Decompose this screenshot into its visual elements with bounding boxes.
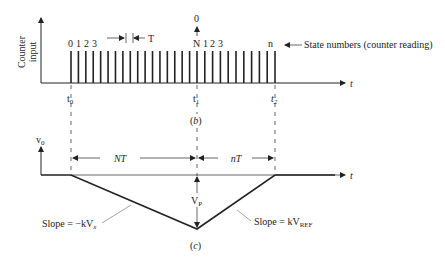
integrator-output-diagram: v0 t NT nT VP Slope = −kVx Slope = kVREF…: [36, 134, 353, 252]
caption-b: (b): [190, 115, 202, 127]
vo-y-axis-label: v0: [36, 134, 45, 147]
slope-up-label: Slope = kVREF: [254, 216, 313, 229]
counter-x-axis-label: t: [350, 78, 353, 89]
counter-y-label-line2: input: [27, 42, 38, 63]
state-label-2: 2: [84, 38, 89, 49]
state-label-N: N: [193, 38, 200, 49]
t1-label: t1: [193, 93, 200, 106]
dual-slope-timing-diagram: t Counter input 0 1 2 3 N 1 2 3 n 0 T St…: [0, 0, 445, 263]
state-label-mid-3: 3: [218, 38, 223, 49]
state-label-3: 3: [92, 38, 97, 49]
counter-input-diagram: t Counter input 0 1 2 3 N 1 2 3 n 0 T St…: [16, 13, 433, 127]
state-label-mid-1: 1: [203, 38, 208, 49]
state-label-1: 1: [76, 38, 81, 49]
slope-up-leader: [237, 210, 251, 221]
counter-y-label-line1: Counter: [16, 35, 27, 68]
vo-x-axis-label: t: [350, 170, 353, 181]
slope-down-label: Slope = −kVx: [42, 218, 97, 231]
reset-label-0: 0: [194, 13, 199, 24]
pulse-train: [71, 51, 275, 83]
slope-down-leader: [102, 205, 131, 223]
state-label-mid-2: 2: [210, 38, 215, 49]
state-label-n: n: [268, 38, 273, 49]
state-numbers-annotation: State numbers (counter reading): [304, 39, 433, 51]
caption-c: (c): [190, 240, 201, 252]
peak-voltage-label: VP: [191, 195, 202, 208]
t2-label: t2: [271, 93, 278, 106]
t0-label: t0: [67, 93, 74, 106]
state-label-0: 0: [68, 38, 73, 49]
interval-nt-label: NT: [113, 153, 128, 164]
interval-small-nt-label: nT: [231, 153, 243, 164]
period-label: T: [148, 33, 154, 44]
